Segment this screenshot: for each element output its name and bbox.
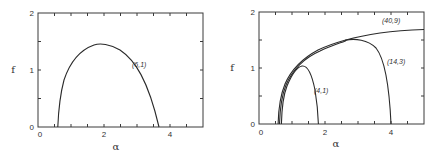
left-panel: 0 2 4 0 1 2 f α (6,1) <box>11 9 203 152</box>
right-y-axis-label: f <box>230 62 235 73</box>
right-x-axis-label: α <box>333 138 340 149</box>
label-6-1: (6,1) <box>132 61 146 69</box>
left-x-axis-label: α <box>113 141 120 152</box>
left-plot-frame <box>38 13 203 127</box>
curve-40-9 <box>278 30 424 125</box>
right-xtick-2: 2 <box>323 128 328 137</box>
right-plot-frame <box>259 12 424 124</box>
right-xtick-4: 4 <box>389 128 394 137</box>
label-14-3: (14,3) <box>387 58 405 66</box>
right-xtick-0: 0 <box>259 128 264 137</box>
left-ytick-1: 1 <box>30 66 35 75</box>
label-40-9: (40,9) <box>382 17 400 25</box>
right-ytick-1: 1 <box>251 64 256 73</box>
curve-4-1 <box>281 66 318 124</box>
left-x-ticks <box>55 13 187 127</box>
left-ytick-2: 2 <box>30 9 35 18</box>
label-4-1: (4,1) <box>314 87 328 95</box>
left-ytick-0: 0 <box>30 123 35 132</box>
curve-6-1 <box>58 44 159 127</box>
right-ytick-0: 0 <box>251 120 256 129</box>
left-y-axis-label: f <box>11 64 16 75</box>
left-xtick-2: 2 <box>102 130 107 139</box>
right-panel: 0 2 4 0 1 2 f α (40,9) (14,3) (4,1) <box>230 8 424 149</box>
curve-14-3 <box>280 39 392 124</box>
left-xtick-0: 0 <box>38 130 43 139</box>
right-ytick-2: 2 <box>251 8 256 17</box>
figure: 0 2 4 0 1 2 f α (6,1) <box>0 0 436 157</box>
left-xtick-4: 4 <box>168 130 173 139</box>
